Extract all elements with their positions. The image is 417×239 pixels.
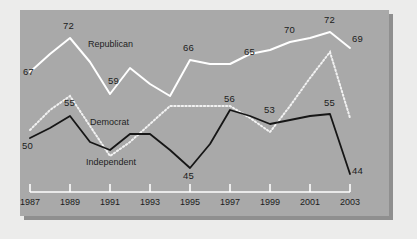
value-label-democrat-2002: 55 — [324, 98, 335, 108]
value-label-republican-2000: 70 — [284, 25, 295, 35]
value-label-democrat-1989: 55 — [64, 98, 75, 108]
x-tick-label-2001: 2001 — [291, 198, 329, 207]
series-label-republican: Republican — [88, 40, 133, 49]
value-label-republican-2002: 72 — [324, 15, 335, 25]
value-label-democrat-1987: 50 — [22, 141, 33, 151]
series-label-independent: Independent — [86, 158, 136, 167]
x-tick-label-2003: 2003 — [331, 198, 369, 207]
value-label-republican-1987: 67 — [23, 67, 34, 77]
x-tick-label-1991: 1991 — [91, 198, 129, 207]
plot-svg — [20, 10, 389, 216]
x-tick-label-1993: 1993 — [131, 198, 169, 207]
x-tick-label-1999: 1999 — [251, 198, 289, 207]
value-label-democrat-1997: 56 — [224, 94, 235, 104]
chart-panel: 67 72 59 66 65 70 72 69 50 55 45 56 53 5… — [20, 10, 389, 216]
value-label-democrat-1995: 45 — [183, 171, 194, 181]
value-label-republican-2003: 69 — [352, 34, 363, 44]
x-tick-label-1995: 1995 — [171, 198, 209, 207]
x-tick-label-1997: 1997 — [211, 198, 249, 207]
plot-area: 67 72 59 66 65 70 72 69 50 55 45 56 53 5… — [20, 10, 389, 216]
value-label-democrat-1999: 53 — [264, 105, 275, 115]
x-axis-ticks — [30, 184, 350, 192]
series-label-democrat: Democrat — [90, 118, 129, 127]
series-line-democrat — [30, 110, 350, 174]
value-label-democrat-2003: 44 — [352, 166, 363, 176]
chart-screenshot: 67 72 59 66 65 70 72 69 50 55 45 56 53 5… — [0, 0, 417, 239]
value-label-republican-1989: 72 — [63, 21, 74, 31]
series-line-independent — [30, 52, 350, 156]
x-tick-label-1989: 1989 — [51, 198, 89, 207]
x-tick-label-1987: 1987 — [20, 198, 49, 207]
value-label-republican-1995: 66 — [183, 43, 194, 53]
value-label-republican-1998: 65 — [244, 47, 255, 57]
value-label-republican-1991: 59 — [108, 76, 119, 86]
